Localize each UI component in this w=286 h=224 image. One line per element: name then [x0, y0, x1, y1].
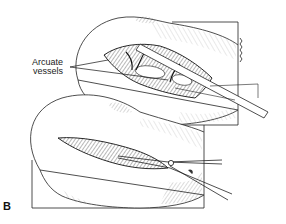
illustration-drawing [0, 0, 286, 224]
panel-label: B [3, 200, 11, 212]
arcuate-vessels-label: Arcuate vessels [32, 58, 63, 76]
scissors-pivot-icon [168, 160, 173, 165]
label-line-2: vessels [32, 67, 63, 76]
surgical-illustration: Arcuate vessels B [0, 0, 286, 224]
